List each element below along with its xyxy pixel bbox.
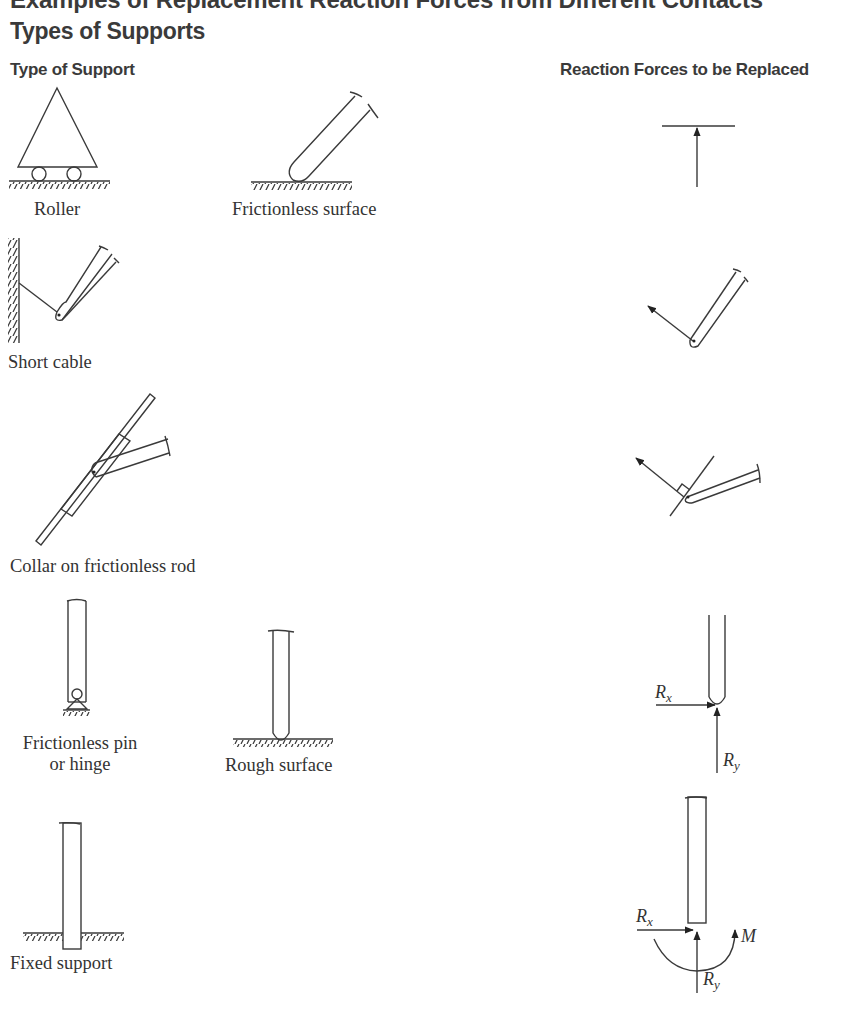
label-frictionless-surface: Frictionless surface <box>232 199 376 220</box>
rough-surface-symbol <box>233 630 333 747</box>
label-rough-surface: Rough surface <box>225 755 332 776</box>
short-cable-symbol <box>8 238 119 343</box>
collar-symbol <box>36 394 170 545</box>
label-roller: Roller <box>34 199 80 220</box>
label-fixed: Fixed support <box>10 953 112 974</box>
pin-reaction-symbol: Rx Ry <box>654 615 740 773</box>
fixed-reaction-symbol: Rx Ry M <box>635 797 757 993</box>
ry-symbol: Ry <box>722 750 740 773</box>
label-pin-line1: Frictionless pin <box>10 733 150 754</box>
ry-symbol-fixed: Ry <box>702 969 720 992</box>
pin-symbol <box>63 600 90 717</box>
label-pin: Frictionless pin or hinge <box>10 733 150 775</box>
collar-reaction-symbol <box>636 456 760 516</box>
roller-reaction-symbol <box>662 126 735 187</box>
moment-symbol: M <box>740 926 757 946</box>
label-pin-line2: or hinge <box>10 754 150 775</box>
rx-symbol: Rx <box>654 682 672 705</box>
roller-symbol <box>9 88 110 189</box>
short-cable-reaction-symbol <box>648 269 748 347</box>
supports-diagram: Rx Ry Rx Ry M <box>0 0 857 1010</box>
fixed-symbol <box>23 823 124 949</box>
label-collar: Collar on frictionless rod <box>10 556 195 577</box>
rx-symbol-fixed: Rx <box>635 906 653 929</box>
label-short-cable: Short cable <box>8 352 92 373</box>
frictionless-surface-symbol <box>251 92 378 190</box>
